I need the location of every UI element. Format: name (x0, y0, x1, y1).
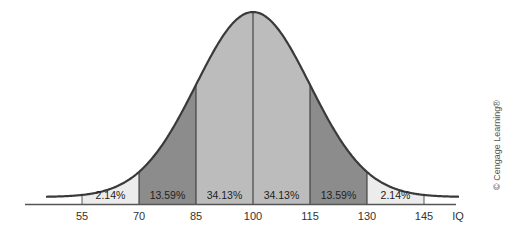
x-tick-label: 145 (415, 210, 433, 222)
x-tick-label: 100 (244, 210, 262, 222)
x-tick-label: 70 (133, 210, 145, 222)
x-axis-label: IQ (452, 210, 464, 222)
x-tick-label: 85 (190, 210, 202, 222)
percent-label: 34.13% (207, 189, 243, 201)
copyright-credit: © Cengage Learning® (492, 100, 502, 190)
x-tick-labels: 557085100115130145 (76, 210, 433, 222)
segment-85-100 (196, 12, 253, 204)
x-tick-label: 115 (301, 210, 319, 222)
x-tick-label: 130 (358, 210, 376, 222)
bell-curve-chart: 2.14%13.59%34.13%34.13%13.59%2.14% 55708… (0, 0, 509, 231)
percent-label: 2.14% (96, 189, 126, 201)
divider-lines (82, 12, 424, 204)
percent-label: 13.59% (321, 189, 357, 201)
percent-label: 34.13% (264, 189, 300, 201)
percent-label: 2.14% (381, 189, 411, 201)
segment-100-115 (253, 12, 310, 204)
x-tick-label: 55 (76, 210, 88, 222)
percent-label: 13.59% (150, 189, 186, 201)
